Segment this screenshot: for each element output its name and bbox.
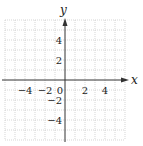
x-tick-label: 2 [82,85,88,96]
x-tick-label: −4 [18,85,33,96]
y-axis-arrow-icon [63,18,68,26]
y-tick-label: 4 [56,35,62,46]
y-tick-label: 2 [56,55,62,66]
coordinate-grid: x y −4 −2 0 2 4 4 2 −2 −4 [0,0,143,146]
x-tick-label: 4 [102,85,108,96]
y-tick-label: −2 [47,95,62,106]
x-axis-label: x [131,73,138,87]
x-tick-labels: −4 −2 0 2 4 [18,85,109,96]
y-axis-label: y [59,3,67,17]
y-tick-label: −4 [47,115,62,126]
